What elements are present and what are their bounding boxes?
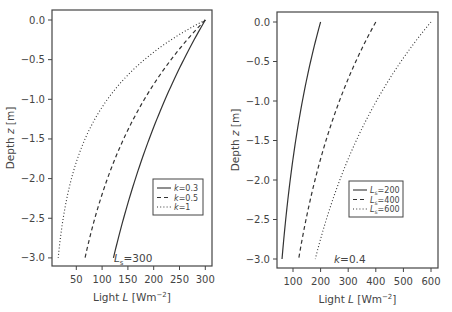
y-tick-label: 0.0 — [254, 17, 270, 28]
y-tick-label: −1.0 — [21, 94, 45, 105]
plot-frame — [277, 12, 438, 268]
annotation: Ls=300 — [114, 252, 152, 267]
x-tick-label: 150 — [118, 274, 137, 285]
series-line-ls-200 — [282, 22, 321, 259]
y-tick-label: −1.5 — [246, 135, 270, 146]
series-line-k-0-3 — [113, 20, 205, 258]
chart-panel-left: 0.0−0.5−1.0−1.5−2.0−2.5−3.05010015020025… — [4, 10, 215, 303]
series-line-ls-400 — [299, 22, 376, 259]
legend-label: k=0.3 — [174, 184, 198, 193]
y-tick-label: −1.0 — [246, 96, 270, 107]
y-tick-label: −3.0 — [246, 254, 270, 265]
x-tick-label: 400 — [366, 276, 385, 287]
legend-label: k=1 — [174, 203, 190, 212]
plot-frame — [52, 10, 212, 266]
y-tick-label: −2.5 — [21, 213, 45, 224]
y-tick-label: −2.0 — [21, 173, 45, 184]
x-tick-label: 50 — [70, 274, 83, 285]
x-tick-label: 200 — [144, 274, 163, 285]
legend-label: Ls=200 — [370, 186, 400, 196]
legend-label: Ls=400 — [370, 196, 400, 206]
y-tick-label: −2.5 — [246, 214, 270, 225]
legend: k=0.3k=0.5k=1 — [153, 179, 203, 215]
y-tick-label: −3.0 — [21, 252, 45, 263]
series-line-k-1 — [58, 20, 205, 258]
x-tick-label: 250 — [170, 274, 189, 285]
series-line-ls-600 — [315, 22, 431, 259]
x-tick-label: 200 — [311, 276, 330, 287]
x-tick-label: 600 — [421, 276, 440, 287]
y-tick-label: 0.0 — [29, 15, 45, 26]
y-tick-label: −0.5 — [21, 54, 45, 65]
x-axis-title: Light L [Wm−2] — [93, 291, 171, 303]
x-tick-label: 500 — [394, 276, 413, 287]
annotation: k=0.4 — [334, 253, 366, 265]
x-axis-title: Light L [Wm−2] — [319, 293, 397, 305]
x-tick-label: 100 — [283, 276, 302, 287]
y-axis-title: Depth z [m] — [229, 109, 241, 172]
x-tick-label: 300 — [196, 274, 215, 285]
figure: 0.0−0.5−1.0−1.5−2.0−2.5−3.05010015020025… — [0, 0, 452, 312]
chart-panel-right: 0.0−0.5−1.0−1.5−2.0−2.5−3.01002003004005… — [229, 12, 441, 305]
legend-label: k=0.5 — [174, 194, 198, 203]
y-tick-label: −0.5 — [246, 56, 270, 67]
x-tick-label: 100 — [93, 274, 112, 285]
x-tick-label: 300 — [339, 276, 358, 287]
legend-label: Ls=600 — [370, 205, 400, 215]
legend: Ls=200Ls=400Ls=600 — [349, 181, 403, 217]
y-tick-label: −2.0 — [246, 175, 270, 186]
y-tick-label: −1.5 — [21, 133, 45, 144]
y-axis-title: Depth z [m] — [4, 107, 16, 170]
series-line-k-0-5 — [85, 20, 205, 258]
